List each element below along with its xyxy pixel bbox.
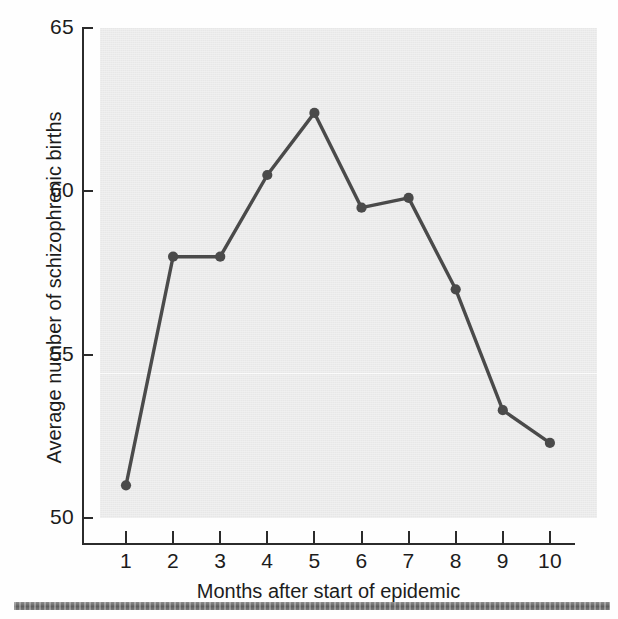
series-markers bbox=[121, 108, 555, 491]
chart-figure: 50556065 12345678910 Months after start … bbox=[0, 0, 618, 619]
series-polyline bbox=[126, 113, 550, 485]
footer-rule bbox=[14, 602, 610, 610]
data-point-marker bbox=[215, 252, 225, 262]
data-point-marker bbox=[121, 480, 131, 490]
data-point-marker bbox=[356, 203, 366, 213]
x-axis-title: Months after start of epidemic bbox=[82, 580, 575, 603]
y-axis-title: Average number of schizophrenic births bbox=[43, 38, 66, 538]
data-point-marker bbox=[262, 170, 272, 180]
data-point-marker bbox=[451, 284, 461, 294]
data-point-marker bbox=[309, 108, 319, 118]
data-point-marker bbox=[545, 438, 555, 448]
data-point-marker bbox=[498, 405, 508, 415]
data-series-line bbox=[0, 0, 618, 619]
data-point-marker bbox=[168, 252, 178, 262]
data-point-marker bbox=[404, 193, 414, 203]
